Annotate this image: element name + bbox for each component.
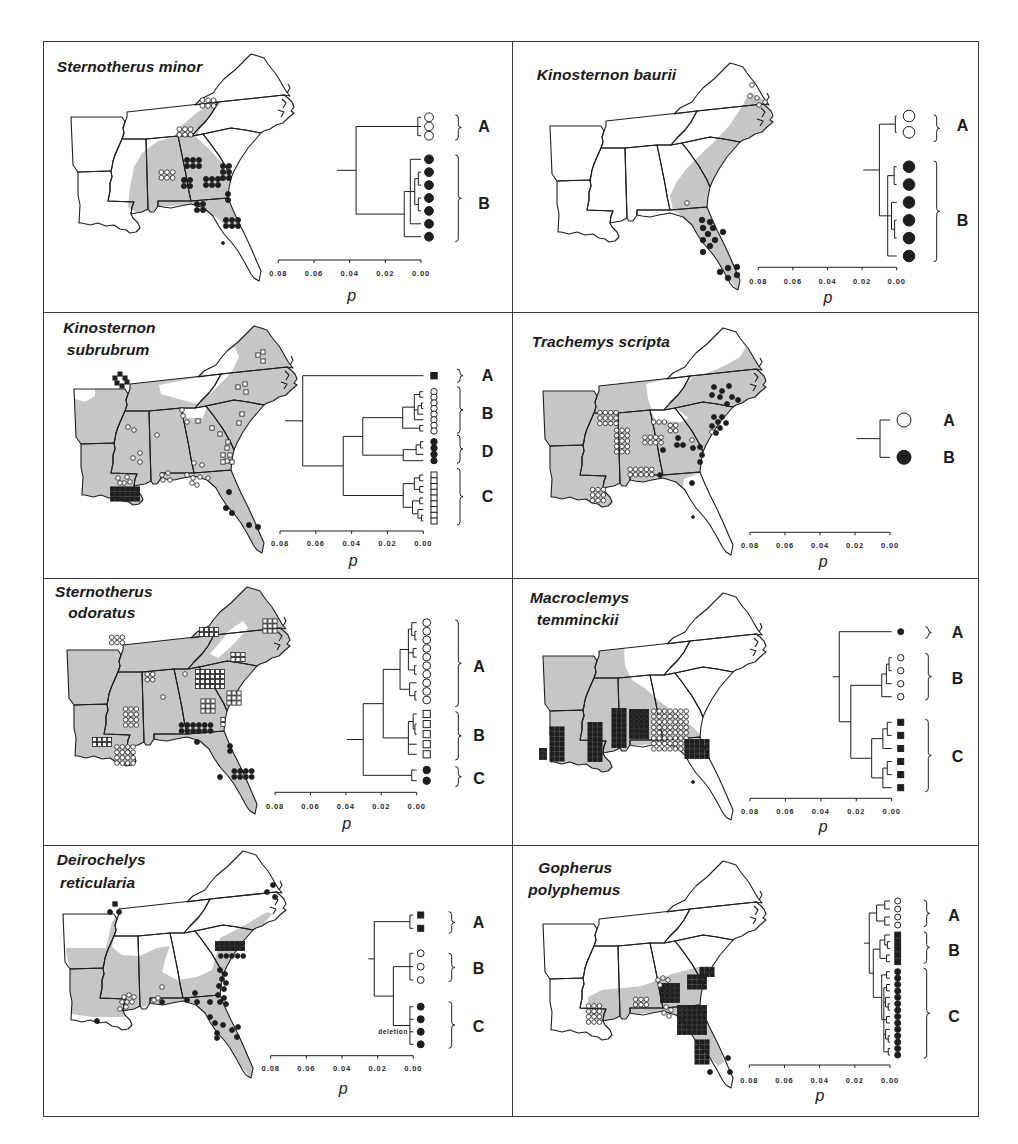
locality-marker <box>124 1005 129 1010</box>
locality-marker <box>675 443 680 448</box>
locality-marker <box>220 679 224 683</box>
locality-marker <box>617 713 621 717</box>
locality-marker <box>660 998 664 1002</box>
locality-marker <box>196 728 201 733</box>
locality-marker <box>244 390 248 394</box>
locality-marker <box>622 733 626 737</box>
locality-marker <box>643 440 648 445</box>
locality-marker <box>560 732 564 736</box>
locality-marker <box>639 734 643 738</box>
haplotype-symbol <box>903 179 915 191</box>
locality-marker <box>230 954 235 959</box>
haplotype-symbol <box>425 232 434 241</box>
haplotype-symbol <box>431 472 437 478</box>
clade-label: B <box>943 449 955 466</box>
locality-marker <box>130 492 134 496</box>
locality-marker <box>120 761 125 766</box>
locality-marker <box>271 883 276 888</box>
locality-marker <box>700 972 704 976</box>
haplotype-symbol <box>423 619 431 627</box>
haplotype-tips <box>903 110 915 262</box>
locality-marker <box>684 730 689 735</box>
locality-marker <box>263 629 267 633</box>
locality-marker <box>220 169 225 174</box>
locality-marker <box>679 709 684 714</box>
locality-marker <box>128 480 133 485</box>
locality-marker <box>237 691 241 695</box>
clade-bracket <box>924 932 930 964</box>
row-divider <box>43 845 979 846</box>
locality-marker <box>220 175 225 180</box>
locality-marker <box>598 757 602 761</box>
locality-marker <box>662 730 667 735</box>
locality-marker <box>236 1025 241 1030</box>
clade-label: A <box>473 914 485 931</box>
locality-marker <box>177 132 182 137</box>
locality-marker <box>550 747 554 751</box>
locality-marker <box>660 993 664 997</box>
locality-marker <box>598 742 602 746</box>
locality-marker <box>227 701 231 705</box>
locality-marker <box>236 652 240 656</box>
locality-marker <box>560 752 564 756</box>
locality-marker <box>692 980 696 984</box>
locality-marker <box>685 754 689 758</box>
locality-marker <box>670 983 674 987</box>
locality-marker <box>208 1015 213 1020</box>
haplotype-symbol <box>431 512 437 518</box>
panel-gopherus-polyphemus: ABC0.080.060.040.020.00p Gopherus polyph… <box>512 845 979 1117</box>
row-divider <box>43 312 979 313</box>
species-title-line-1: Macroclemys <box>530 589 629 607</box>
scale-tick-label: 0.06 <box>297 1064 315 1073</box>
locality-marker <box>588 752 592 756</box>
locality-marker <box>700 1040 704 1044</box>
scale-tick-label: 0.02 <box>846 541 864 550</box>
locality-marker <box>125 380 129 384</box>
locality-marker <box>218 954 223 959</box>
locality-marker <box>657 730 662 735</box>
locality-marker <box>198 475 203 480</box>
haplotype-symbol <box>898 732 904 738</box>
locality-marker <box>673 747 678 752</box>
locality-marker <box>130 1000 135 1005</box>
locality-marker <box>246 522 251 527</box>
haplotype-symbol <box>417 1003 424 1010</box>
locality-marker <box>181 183 186 188</box>
haplotype-symbol <box>423 751 430 758</box>
clade-label: C <box>952 748 964 765</box>
locality-marker <box>705 231 711 237</box>
locality-marker <box>159 170 164 175</box>
locality-marker <box>235 946 239 950</box>
locality-marker <box>203 182 208 187</box>
locality-marker <box>195 483 200 488</box>
distance-axis-label: p <box>818 818 828 835</box>
species-title-line-2: temminckii <box>537 611 619 629</box>
locality-marker <box>687 1005 691 1009</box>
locality-marker <box>204 632 208 636</box>
locality-marker <box>592 1020 597 1025</box>
scale-tick-label: 0.06 <box>305 269 323 278</box>
locality-marker <box>697 980 701 984</box>
clade-bracket <box>925 653 931 700</box>
locality-marker <box>700 453 705 458</box>
locality-marker <box>679 730 684 735</box>
haplotype-symbol <box>425 219 434 228</box>
scale-tick-label: 0.00 <box>888 277 906 286</box>
clade-label: C <box>473 770 485 787</box>
haplotype-tips <box>425 113 434 241</box>
locality-marker <box>698 445 703 450</box>
locality-marker <box>215 674 219 678</box>
locality-marker <box>232 691 236 695</box>
locality-marker <box>608 416 613 421</box>
clade-bracket <box>457 435 463 463</box>
locality-marker <box>652 714 657 719</box>
scale-tick-label: 0.04 <box>341 269 359 278</box>
locality-marker <box>235 217 240 222</box>
locality-marker <box>708 1070 713 1075</box>
haplotype-symbol <box>423 679 431 687</box>
locality-marker <box>622 708 626 712</box>
locality-marker <box>661 448 666 453</box>
haplotype-symbol <box>431 439 437 445</box>
scale-bar: 0.080.060.040.020.00p <box>266 792 426 832</box>
scale-tick-label: 0.06 <box>301 802 319 811</box>
